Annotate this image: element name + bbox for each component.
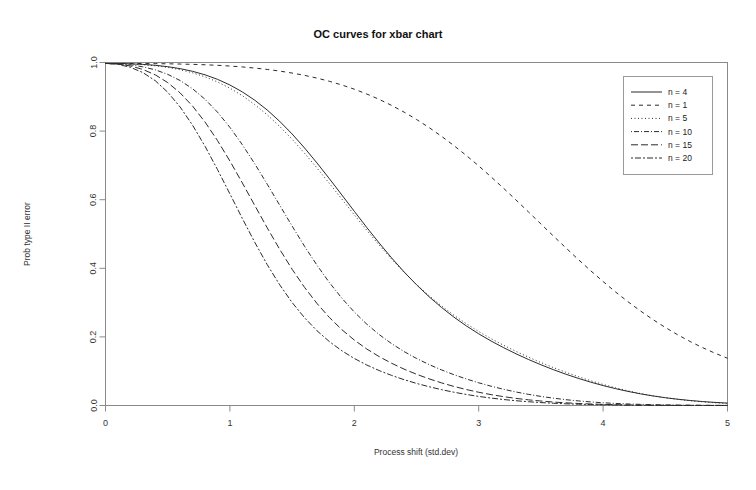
- oc-curve-figure: OC curves for xbar chart 012345 0.00.20.…: [0, 0, 756, 490]
- chart-legend: n = 4n = 1n = 5n = 10n = 15n = 20: [624, 77, 713, 175]
- legend-label-n1: n = 1: [668, 100, 687, 110]
- y-axis-tick-label: 0.2: [89, 331, 99, 344]
- x-axis-tick-label: 3: [476, 418, 481, 428]
- legend-label-n5: n = 5: [668, 113, 687, 123]
- legend-label-n15: n = 15: [668, 140, 692, 150]
- x-axis-tick-label: 4: [601, 418, 606, 428]
- legend-label-n10: n = 10: [668, 127, 692, 137]
- x-axis-tick-label: 0: [103, 418, 108, 428]
- legend-label-n4: n = 4: [668, 87, 687, 97]
- y-axis-tick-label: 1.0: [89, 56, 99, 69]
- chart-title: OC curves for xbar chart: [314, 28, 443, 40]
- y-axis-tick-label: 0.4: [89, 262, 99, 275]
- legend-label-n20: n = 20: [668, 153, 692, 163]
- y-axis-title: Prob type II error: [22, 202, 32, 266]
- y-axis-tick-label: 0.0: [89, 399, 99, 412]
- x-axis-tick-label: 1: [227, 418, 232, 428]
- x-axis-tick-label: 2: [352, 418, 357, 428]
- x-axis-title: Process shift (std.dev): [374, 447, 458, 457]
- x-axis: 012345: [103, 406, 730, 428]
- x-axis-tick-label: 5: [725, 418, 730, 428]
- y-axis: 0.00.20.40.60.81.0: [89, 56, 106, 412]
- y-axis-tick-label: 0.6: [89, 193, 99, 206]
- chart-canvas: OC curves for xbar chart 012345 0.00.20.…: [0, 0, 756, 490]
- y-axis-tick-label: 0.8: [89, 125, 99, 138]
